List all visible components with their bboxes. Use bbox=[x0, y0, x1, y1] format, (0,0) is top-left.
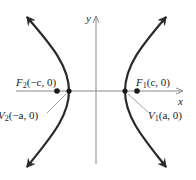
x-axis-label: x bbox=[178, 96, 183, 107]
f1-coords: (c, 0) bbox=[147, 76, 170, 88]
vertex-v1-label: V1(a, 0) bbox=[148, 110, 182, 123]
v1-leader-line bbox=[128, 94, 148, 112]
f2-coords: (−c, 0) bbox=[27, 76, 56, 88]
hyperbola-right-branch bbox=[125, 17, 166, 167]
f2-symbol: F bbox=[16, 76, 23, 88]
v2-leader-line bbox=[47, 94, 66, 113]
hyperbola-diagram bbox=[0, 0, 196, 180]
focus-f1-label: F1(c, 0) bbox=[136, 77, 170, 90]
f1-symbol: F bbox=[136, 76, 143, 88]
vertex-v2-label: V2(−a, 0) bbox=[0, 110, 38, 123]
v1-coords: (a, 0) bbox=[159, 109, 182, 121]
focus-f2-label: F2(−c, 0) bbox=[16, 77, 56, 90]
v2-coords: (−a, 0) bbox=[9, 109, 38, 121]
vertex-v1-point bbox=[122, 88, 127, 93]
y-axis-label: y bbox=[86, 13, 91, 24]
v1-symbol: V bbox=[148, 109, 155, 121]
vertex-v2-point bbox=[66, 88, 71, 93]
hyperbola-left-branch bbox=[27, 17, 69, 167]
